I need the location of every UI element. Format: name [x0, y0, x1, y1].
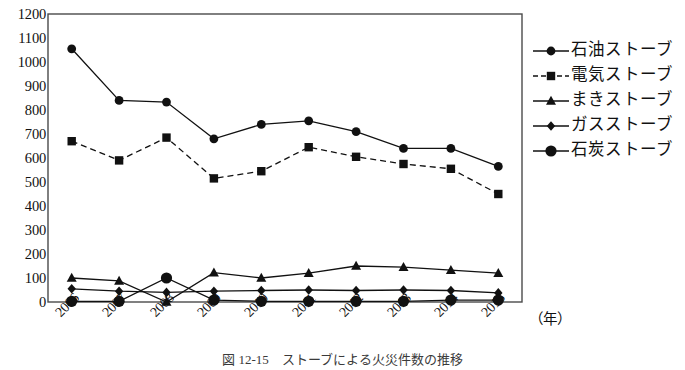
y-tick-label: 200	[2, 247, 46, 262]
series-wood-stove	[67, 261, 504, 306]
data-point-marker	[351, 261, 361, 270]
data-point-marker	[447, 144, 456, 153]
figure-root: 1200110010009008007006005004003002001000…	[0, 0, 685, 370]
data-point-marker	[115, 156, 123, 164]
data-point-marker	[115, 96, 124, 105]
data-point-marker	[210, 174, 218, 182]
legend-item-label: 電気ストーブ	[571, 67, 673, 84]
data-point-marker	[399, 160, 407, 168]
legend-item-wood-stove: まきストーブ	[531, 88, 683, 113]
legend-item-oil-stove: 石油ストーブ	[531, 38, 683, 63]
series-layer	[66, 44, 504, 306]
legend-marker-icon	[531, 143, 571, 159]
y-tick-label: 400	[2, 199, 46, 214]
series-line	[72, 138, 499, 194]
legend-marker-icon	[531, 68, 571, 84]
y-axis-tick-labels: 1200110010009008007006005004003002001000	[0, 0, 46, 370]
data-point-marker	[67, 44, 76, 53]
series-line	[72, 289, 499, 293]
legend-item-label: 石油ストーブ	[571, 42, 673, 59]
data-point-marker	[209, 268, 219, 277]
data-point-marker	[67, 273, 77, 282]
data-point-marker	[162, 98, 171, 107]
data-point-marker	[304, 116, 313, 125]
legend-item-coal-stove: 石炭ストーブ	[531, 138, 683, 163]
y-tick-label: 100	[2, 271, 46, 286]
data-point-marker	[257, 167, 265, 175]
data-point-marker	[68, 137, 76, 145]
data-point-marker	[494, 162, 503, 171]
y-tick-label: 0	[2, 295, 46, 310]
legend-marker-icon	[531, 43, 571, 59]
y-tick-label: 500	[2, 175, 46, 190]
legend-item-label: まきストーブ	[571, 92, 673, 109]
data-point-marker	[210, 134, 219, 143]
legend-marker-icon	[531, 118, 571, 134]
data-point-marker	[161, 272, 172, 283]
y-tick-label: 1000	[2, 55, 46, 70]
y-tick-label: 1200	[2, 7, 46, 22]
y-tick-label: 700	[2, 127, 46, 142]
legend-item-label: ガスストーブ	[571, 117, 673, 134]
legend-marker-icon	[531, 93, 571, 109]
data-point-marker	[352, 153, 360, 161]
x-axis-unit-label: （年）	[529, 307, 571, 328]
data-point-marker	[257, 120, 266, 129]
series-line	[72, 266, 499, 302]
y-tick-label: 600	[2, 151, 46, 166]
data-point-marker	[162, 133, 170, 141]
y-tick-label: 1100	[2, 31, 46, 46]
figure-caption: 図 12-15 ストーブによる火災件数の推移	[0, 352, 685, 370]
y-tick-label: 300	[2, 223, 46, 238]
chart-legend: 石油ストーブ電気ストーブまきストーブガスストーブ石炭ストーブ	[531, 38, 683, 163]
legend-item-gas-stove: ガスストーブ	[531, 113, 683, 138]
data-point-marker	[352, 127, 361, 136]
series-gas-stove	[68, 284, 503, 298]
series-line	[72, 49, 499, 167]
series-electric-stove	[68, 133, 503, 198]
legend-item-electric-stove: 電気ストーブ	[531, 63, 683, 88]
y-tick-label: 900	[2, 79, 46, 94]
data-point-marker	[305, 143, 313, 151]
data-point-marker	[447, 165, 455, 173]
data-point-marker	[494, 190, 502, 198]
y-tick-label: 800	[2, 103, 46, 118]
series-oil-stove	[67, 44, 502, 170]
data-point-marker	[399, 144, 408, 153]
legend-item-label: 石炭ストーブ	[571, 142, 673, 159]
